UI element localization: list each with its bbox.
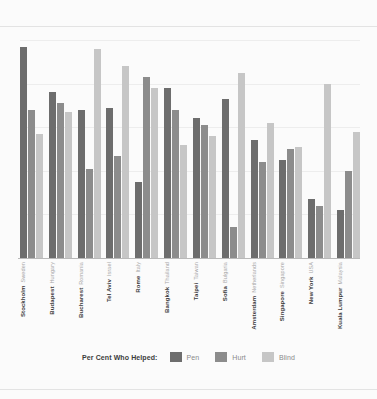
category-country: Italy xyxy=(135,262,141,273)
legend-swatch-hurt xyxy=(215,352,227,362)
page-rule-bottom xyxy=(0,389,377,390)
category-country: Thailand xyxy=(164,262,170,284)
bar-blind[interactable] xyxy=(65,112,72,258)
page-rule-top xyxy=(0,26,377,27)
category-city: Singapore xyxy=(279,291,285,321)
bar-blind[interactable] xyxy=(94,49,101,258)
bar-group xyxy=(164,40,187,258)
bar-group xyxy=(279,40,302,258)
bar-blind[interactable] xyxy=(122,66,129,258)
bar-group xyxy=(78,40,101,258)
category-city: Stockholm xyxy=(20,285,26,317)
category-label: BucharestRomania xyxy=(78,262,101,342)
bar-group xyxy=(251,40,274,258)
category-city: Bucharest xyxy=(78,288,84,318)
category-axis-labels: StockholmSwedenBudapestHungaryBucharestR… xyxy=(20,262,360,342)
bar-group xyxy=(308,40,331,258)
bar-pen[interactable] xyxy=(20,47,27,258)
category-label: AmsterdamNetherlands xyxy=(251,262,274,342)
category-label: TaipeiTaiwan xyxy=(193,262,216,342)
bar-pen[interactable] xyxy=(49,92,56,258)
bar-pen[interactable] xyxy=(222,99,229,258)
bar-pen[interactable] xyxy=(251,140,258,258)
category-label: SofiaBulgaria xyxy=(222,262,245,342)
bar-pen[interactable] xyxy=(106,108,113,258)
bar-blind[interactable] xyxy=(151,88,158,258)
bar-pen[interactable] xyxy=(308,199,315,258)
bar-hurt[interactable] xyxy=(287,149,294,258)
bar-hurt[interactable] xyxy=(57,103,64,258)
legend-swatch-blind xyxy=(262,352,274,362)
bar-hurt[interactable] xyxy=(259,162,266,258)
category-country: Bulgaria xyxy=(222,262,228,283)
category-label: Tel AvivIsrael xyxy=(106,262,129,342)
category-country: Malaysia xyxy=(337,262,343,285)
category-label: StockholmSweden xyxy=(20,262,43,342)
category-country: USA xyxy=(308,262,314,274)
bar-hurt[interactable] xyxy=(172,110,179,258)
category-city: New York xyxy=(308,277,314,305)
bar-hurt[interactable] xyxy=(345,171,352,258)
category-country: Sweden xyxy=(20,262,26,282)
bar-group xyxy=(222,40,245,258)
bar-pen[interactable] xyxy=(164,88,171,258)
bar-groups xyxy=(20,40,360,258)
category-city: Bangkok xyxy=(164,287,170,313)
bar-pen[interactable] xyxy=(337,210,344,258)
bar-hurt[interactable] xyxy=(316,206,323,258)
bar-group xyxy=(193,40,216,258)
category-city: Budapest xyxy=(49,287,55,315)
bar-blind[interactable] xyxy=(295,147,302,258)
bar-hurt[interactable] xyxy=(230,227,237,258)
bar-blind[interactable] xyxy=(267,123,274,258)
bar-hurt[interactable] xyxy=(201,125,208,258)
category-label: RomeItaly xyxy=(135,262,158,342)
legend-item-blind[interactable]: Blind xyxy=(262,352,295,362)
x-axis-line xyxy=(18,258,360,259)
category-country: Israel xyxy=(106,262,112,276)
bar-hurt[interactable] xyxy=(114,156,121,258)
bar-blind[interactable] xyxy=(324,84,331,258)
legend-item-pen[interactable]: Pen xyxy=(170,352,200,362)
bar-group xyxy=(106,40,129,258)
legend-label-blind: Blind xyxy=(279,354,295,361)
category-label: BangkokThailand xyxy=(164,262,187,342)
category-city: Rome xyxy=(135,276,141,293)
category-city: Tel Aviv xyxy=(106,279,112,302)
chart-figure: StockholmSwedenBudapestHungaryBucharestR… xyxy=(0,0,377,399)
bar-blind[interactable] xyxy=(180,145,187,258)
category-label: New YorkUSA xyxy=(308,262,331,342)
category-label: BudapestHungary xyxy=(49,262,72,342)
category-country: Netherlands xyxy=(251,262,257,293)
bar-blind[interactable] xyxy=(209,136,216,258)
legend-items: PenHurtBlind xyxy=(170,352,295,362)
bar-pen[interactable] xyxy=(135,182,142,258)
plot-area xyxy=(20,40,360,258)
bar-blind[interactable] xyxy=(353,132,360,258)
legend-item-hurt[interactable]: Hurt xyxy=(215,352,246,362)
bar-hurt[interactable] xyxy=(143,77,150,258)
bar-blind[interactable] xyxy=(36,134,43,258)
legend-label-pen: Pen xyxy=(187,354,200,361)
bar-hurt[interactable] xyxy=(28,110,35,258)
bar-hurt[interactable] xyxy=(86,169,93,258)
category-city: Kuala Lumpur xyxy=(337,288,343,330)
category-label: SingaporeSingapore xyxy=(279,262,302,342)
bar-pen[interactable] xyxy=(279,160,286,258)
category-country: Singapore xyxy=(279,262,285,288)
category-city: Sofia xyxy=(222,286,228,301)
legend-label-hurt: Hurt xyxy=(232,354,246,361)
category-city: Taipei xyxy=(193,283,199,301)
bar-group xyxy=(337,40,360,258)
category-country: Hungary xyxy=(49,262,55,284)
category-country: Taiwan xyxy=(193,262,199,280)
category-city: Amsterdam xyxy=(251,296,257,330)
bar-pen[interactable] xyxy=(193,118,200,258)
bar-group xyxy=(135,40,158,258)
legend-title: Per Cent Who Helped: xyxy=(82,354,158,361)
category-label: Kuala LumpurMalaysia xyxy=(337,262,360,342)
bar-pen[interactable] xyxy=(78,110,85,258)
bar-blind[interactable] xyxy=(238,73,245,258)
category-country: Romania xyxy=(78,262,84,285)
bar-group xyxy=(49,40,72,258)
